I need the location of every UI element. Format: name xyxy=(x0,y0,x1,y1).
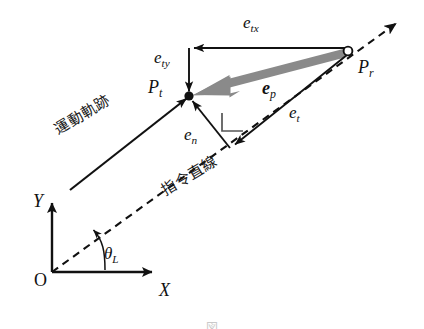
label-point-pr: Pr xyxy=(358,58,374,76)
label-origin: O xyxy=(34,271,47,289)
label-axis-x: X xyxy=(159,281,170,299)
figure-caption-cropped: 図 xyxy=(0,318,424,329)
label-e-tx: etx xyxy=(243,14,259,31)
label-axis-y: Y xyxy=(33,192,43,210)
label-e-p: ep xyxy=(262,79,276,97)
command-line-dashed xyxy=(52,24,396,273)
label-e-t: et xyxy=(289,104,300,121)
point-marker-pr xyxy=(344,47,353,56)
figure-root: etx ety ep et en Pt Pr θL Y X O 運動軌跡 指令直… xyxy=(0,0,424,329)
label-theta-l: θL xyxy=(104,245,119,262)
vector-e-n xyxy=(193,101,231,148)
label-e-ty: ety xyxy=(154,49,170,66)
right-angle-icon xyxy=(222,113,243,131)
point-marker-pt xyxy=(184,91,193,100)
label-e-n: en xyxy=(184,126,197,143)
label-point-pt: Pt xyxy=(148,78,162,96)
vector-e-p-shaft xyxy=(226,49,345,89)
